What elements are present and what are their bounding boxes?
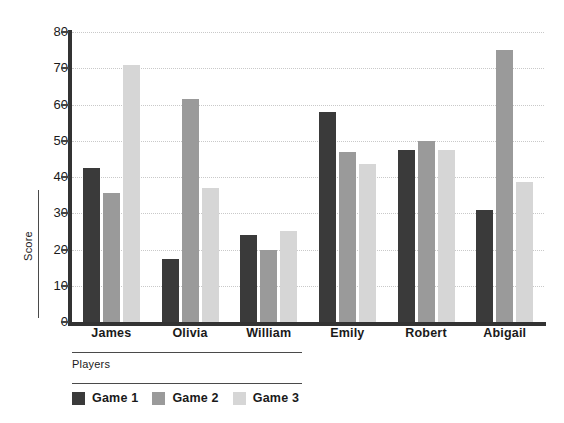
legend: Game 1Game 2Game 3 bbox=[72, 390, 299, 406]
legend-rule bbox=[72, 383, 302, 384]
x-axis-label: Players bbox=[72, 358, 110, 370]
bar bbox=[103, 193, 120, 322]
legend-swatch bbox=[233, 392, 246, 405]
legend-item[interactable]: Game 3 bbox=[233, 391, 299, 405]
legend-item[interactable]: Game 1 bbox=[72, 391, 138, 405]
bar bbox=[280, 231, 297, 322]
y-tick-mark bbox=[61, 321, 69, 323]
y-tick-mark bbox=[61, 285, 69, 287]
bar bbox=[319, 112, 336, 322]
x-tick-label: William bbox=[229, 326, 308, 344]
legend-swatch bbox=[152, 392, 165, 405]
bar bbox=[83, 168, 100, 322]
bar bbox=[438, 150, 455, 322]
x-axis-label-rule bbox=[72, 352, 302, 353]
y-axis-label: Score bbox=[22, 194, 34, 298]
bar-group bbox=[387, 32, 466, 322]
bar bbox=[260, 250, 277, 323]
x-tick-label: James bbox=[72, 326, 151, 344]
y-tick-mark bbox=[61, 67, 69, 69]
bar-groups bbox=[72, 32, 544, 322]
bar bbox=[162, 259, 179, 322]
bar-group bbox=[465, 32, 544, 322]
bar-group bbox=[72, 32, 151, 322]
legend-item[interactable]: Game 2 bbox=[152, 391, 218, 405]
legend-swatch bbox=[72, 392, 85, 405]
bar-chart: Score 01020304050607080 JamesOliviaWilli… bbox=[0, 0, 564, 423]
x-tick-label: Emily bbox=[308, 326, 387, 344]
bar-group bbox=[151, 32, 230, 322]
bar bbox=[123, 65, 140, 322]
bar bbox=[398, 150, 415, 322]
legend-label: Game 2 bbox=[172, 391, 218, 405]
legend-label: Game 3 bbox=[253, 391, 299, 405]
y-tick-mark bbox=[61, 249, 69, 251]
x-tick-label: Abigail bbox=[465, 326, 544, 344]
bar bbox=[516, 182, 533, 322]
y-tick-mark bbox=[61, 104, 69, 106]
bar bbox=[182, 99, 199, 322]
bar bbox=[339, 152, 356, 322]
x-tick-label: Robert bbox=[387, 326, 466, 344]
bar bbox=[496, 50, 513, 322]
bar bbox=[240, 235, 257, 322]
bar bbox=[359, 164, 376, 322]
y-tick-mark bbox=[61, 140, 69, 142]
y-tick-mark bbox=[61, 176, 69, 178]
y-tick-mark bbox=[61, 31, 69, 33]
bar-group bbox=[308, 32, 387, 322]
bar bbox=[418, 141, 435, 322]
plot-area bbox=[72, 32, 544, 322]
bar bbox=[202, 188, 219, 322]
bar bbox=[476, 210, 493, 322]
legend-label: Game 1 bbox=[92, 391, 138, 405]
x-tick-label: Olivia bbox=[151, 326, 230, 344]
bar-group bbox=[229, 32, 308, 322]
x-axis-tick-labels: JamesOliviaWilliamEmilyRobertAbigail bbox=[72, 326, 544, 344]
y-tick-mark bbox=[61, 212, 69, 214]
